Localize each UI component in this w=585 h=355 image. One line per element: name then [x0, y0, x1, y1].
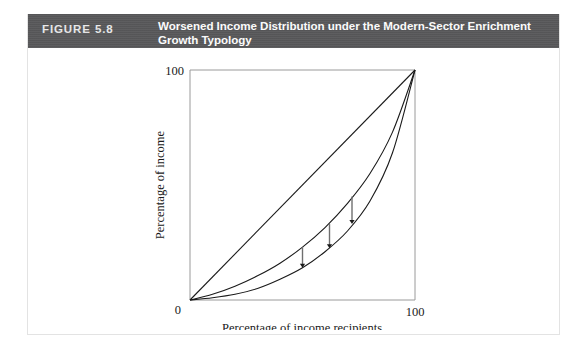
y-axis-tick-0: 0: [175, 303, 181, 317]
chart-plot-area: 100 0 100 Percentage of income recipient…: [150, 55, 450, 330]
y-axis-tick-100: 100: [165, 64, 184, 78]
x-axis-tick-100: 100: [406, 305, 425, 319]
figure-header-bar: FIGURE 5.8 Worsened Income Distribution …: [28, 14, 559, 48]
y-axis-title: Percentage of income: [153, 130, 167, 239]
lorenz-curve-chart: 100 0 100 Percentage of income recipient…: [150, 55, 450, 330]
figure-root: FIGURE 5.8 Worsened Income Distribution …: [0, 0, 585, 355]
x-axis-title: Percentage of income recipients: [222, 321, 382, 330]
figure-title: Worsened Income Distribution under the M…: [158, 19, 548, 46]
figure-number-label: FIGURE 5.8: [42, 23, 114, 35]
